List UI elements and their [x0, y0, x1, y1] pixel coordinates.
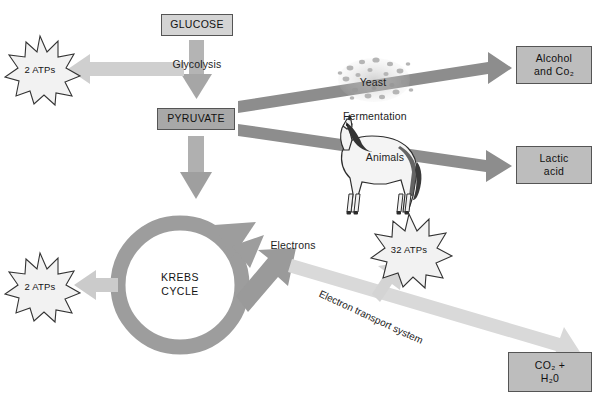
cellular-respiration-diagram: GLUCOSE PYRUVATE Alcoholand Co₂ Lacticac…	[0, 0, 602, 400]
label-animals: Animals	[366, 151, 404, 163]
label-fermentation: Fermentation	[343, 110, 407, 122]
label-krebs-cycle: KREBSCYCLE	[161, 271, 199, 298]
box-lactic-acid-label: Lacticacid	[539, 152, 568, 179]
box-glucose[interactable]: GLUCOSE	[161, 14, 233, 36]
pyruvate-to-krebs-arrow	[180, 136, 212, 199]
box-pyruvate-label: PYRUVATE	[167, 112, 224, 125]
label-glycolysis: Glycolysis	[173, 58, 222, 70]
box-co2-h2o[interactable]: CO₂ +H₂0	[508, 352, 592, 392]
glycolysis-atp-arrow	[68, 54, 184, 84]
box-alcohol-co2-label: Alcoholand Co₂	[534, 52, 574, 79]
box-alcohol-co2[interactable]: Alcoholand Co₂	[516, 46, 592, 84]
burst-label-atps-krebs: 2 ATPs	[24, 281, 55, 292]
burst-label-atps-ets: 32 ATPs	[391, 244, 428, 255]
arrow-layer	[0, 0, 602, 400]
box-pyruvate[interactable]: PYRUVATE	[157, 108, 235, 130]
box-lactic-acid[interactable]: Lacticacid	[516, 146, 592, 184]
box-co2-h2o-label: CO₂ +H₂0	[535, 359, 565, 386]
box-glucose-label: GLUCOSE	[170, 18, 223, 31]
label-electrons: Electrons	[270, 239, 315, 251]
burst-label-atps-glycolysis: 2 ATPs	[24, 64, 55, 75]
horse-illustration	[341, 114, 422, 215]
label-yeast: Yeast	[360, 76, 387, 88]
